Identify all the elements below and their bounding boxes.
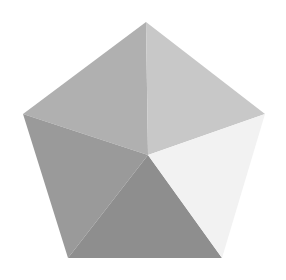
faceted-pentagon-figure [0, 0, 286, 280]
